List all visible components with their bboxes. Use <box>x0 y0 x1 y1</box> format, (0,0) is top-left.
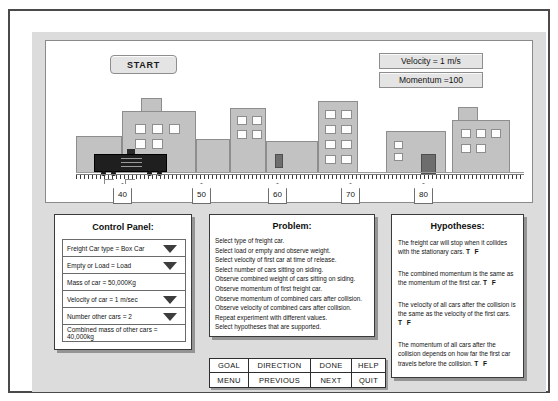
hypothesis-item: The momentum of all cars after the colli… <box>398 340 517 368</box>
hypotheses-panel: Hypotheses: The freight car will stop wh… <box>391 214 524 378</box>
window-icon <box>325 110 336 119</box>
control-row-empty-or-load[interactable]: Empty or Load = Load <box>63 257 185 274</box>
control-row-mass-of-car: Mass of car = 50,000Kg <box>63 274 185 291</box>
window-icon <box>169 124 180 134</box>
window-icon <box>237 130 247 139</box>
chevron-down-icon[interactable] <box>163 313 177 321</box>
marker-label: 60 <box>268 190 287 199</box>
distance-marker-60: 60 <box>268 183 287 204</box>
window-icon <box>152 124 163 134</box>
control-row-label: Mass of car = 50,000Kg <box>67 279 136 286</box>
hypothesis-text: The freight car will stop when it collid… <box>398 239 507 255</box>
problem-step: Observe momentum of first freight car. <box>215 284 374 294</box>
control-row-number-other-cars[interactable]: Number other cars = 2 <box>63 308 185 325</box>
chevron-down-icon[interactable] <box>163 296 177 304</box>
hypothesis-text: The velocity of all cars after the colli… <box>398 301 516 317</box>
problem-panel-title: Problem: <box>210 221 374 231</box>
distance-marker-80: 80 <box>414 183 433 204</box>
problem-step: Select number of cars sitting on siding. <box>215 265 374 275</box>
building-8-tower <box>458 107 478 121</box>
done-button[interactable]: DONE <box>311 359 352 373</box>
hypothesis-true-false-toggle[interactable]: T F <box>398 319 412 326</box>
window-icon <box>341 110 352 119</box>
control-row-velocity-of-car[interactable]: Velocity of car = 1 m/sec <box>63 291 185 308</box>
window-icon <box>461 129 471 138</box>
hypotheses-list: The freight car will stop when it collid… <box>398 238 517 368</box>
building-7 <box>386 131 446 173</box>
outer-frame: 40 50 60 70 80 START Velocity = 1 m/s Mo… <box>8 9 550 393</box>
building-5 <box>266 141 318 173</box>
window-icon <box>341 140 352 149</box>
distance-marker-50: 50 <box>192 183 211 204</box>
window-icon <box>341 155 352 164</box>
ground-line <box>76 172 524 173</box>
momentum-readout: Momentum =100 <box>379 72 483 88</box>
help-button[interactable]: HELP <box>352 359 385 373</box>
previous-button[interactable]: PREVIOUS <box>249 373 311 387</box>
menu-button[interactable]: MENU <box>210 373 249 387</box>
direction-button[interactable]: DIRECTION <box>249 359 311 373</box>
control-panel: Control Panel: Freight Car type = Box Ca… <box>54 214 192 350</box>
window-icon <box>341 125 352 134</box>
control-panel-title: Control Panel: <box>55 222 191 232</box>
door-icon <box>275 154 283 168</box>
hypothesis-true-false-toggle[interactable]: T F <box>483 279 497 286</box>
window-icon <box>252 116 262 125</box>
window-icon <box>152 139 163 149</box>
problem-step: Observe velocity of combined cars after … <box>215 303 374 313</box>
window-icon <box>491 129 501 138</box>
window-icon <box>394 141 403 149</box>
window-icon <box>252 130 262 139</box>
marker-label: 50 <box>192 190 211 199</box>
hypothesis-item: The velocity of all cars after the colli… <box>398 300 517 328</box>
quit-button[interactable]: QUIT <box>352 373 385 387</box>
control-row-label: Number other cars = 2 <box>67 313 132 320</box>
window-icon <box>325 155 336 164</box>
hypothesis-item: The freight car will stop when it collid… <box>398 238 517 257</box>
door-icon <box>421 154 436 174</box>
window-icon <box>476 144 486 153</box>
control-row-freight-car-type[interactable]: Freight Car type = Box Car <box>63 240 185 257</box>
railway-track <box>76 174 524 179</box>
problem-step: Select hypotheses that are supported. <box>215 322 374 332</box>
problem-step: Repeat experiment with different values. <box>215 313 374 323</box>
control-row-label: Empty or Load = Load <box>67 262 131 269</box>
building-2-tower <box>141 98 162 112</box>
problem-step: Select load or empty and observe weight. <box>215 246 374 256</box>
problem-step: Observe momentum of combined cars after … <box>215 294 374 304</box>
window-icon <box>476 129 486 138</box>
building-3 <box>196 139 230 173</box>
goal-button[interactable]: GOAL <box>210 359 249 373</box>
navigation-button-grid: GOAL DIRECTION DONE HELP MENU PREVIOUS N… <box>209 358 386 388</box>
window-icon <box>394 153 403 161</box>
problem-step: Select type of freight car. <box>215 236 374 246</box>
building-8 <box>452 120 510 173</box>
freight-boxcar <box>94 154 167 172</box>
start-button[interactable]: START <box>110 55 177 74</box>
hypotheses-panel-title: Hypotheses: <box>392 221 523 231</box>
control-panel-rows: Freight Car type = Box Car Empty or Load… <box>62 239 186 342</box>
chevron-down-icon[interactable] <box>163 245 177 253</box>
window-icon <box>135 139 146 149</box>
building-4 <box>230 108 266 173</box>
hypothesis-true-false-toggle[interactable]: T F <box>474 360 488 367</box>
control-row-label: Combined mass of other cars = 40,000kg <box>67 326 185 340</box>
chevron-down-icon[interactable] <box>163 262 177 270</box>
window-icon <box>237 116 247 125</box>
marker-label: 80 <box>414 190 433 199</box>
building-6 <box>318 101 358 173</box>
window-icon <box>325 125 336 134</box>
hypothesis-true-false-toggle[interactable]: T F <box>466 248 480 255</box>
problem-step-list: Select type of freight car. Select load … <box>215 236 374 332</box>
hypothesis-item: The combined momentum is the same as the… <box>398 269 517 288</box>
marker-label: 40 <box>113 190 132 199</box>
control-row-combined-mass: Combined mass of other cars = 40,000kg <box>63 325 185 342</box>
distance-marker-70: 70 <box>341 183 360 204</box>
next-button[interactable]: NEXT <box>311 373 352 387</box>
boxcar-door-panel <box>121 158 142 170</box>
app-root: 40 50 60 70 80 START Velocity = 1 m/s Mo… <box>0 0 558 401</box>
velocity-readout: Velocity = 1 m/s <box>379 53 483 69</box>
problem-step: Select velocity of first car at time of … <box>215 255 374 265</box>
control-row-label: Freight Car type = Box Car <box>67 245 145 252</box>
simulation-stage: 40 50 60 70 80 START Velocity = 1 m/s Mo… <box>45 40 533 203</box>
